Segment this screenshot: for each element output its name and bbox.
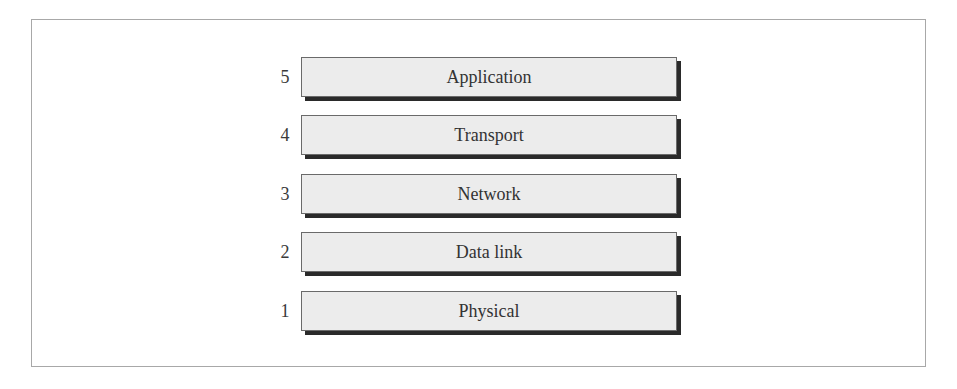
layer-label: Data link [456,242,522,263]
layer-label: Transport [454,125,523,146]
layer-number: 3 [276,184,294,205]
layer-number: 1 [276,301,294,322]
layer-box-application: Application [301,57,677,97]
layer-label: Physical [459,301,520,322]
layer-number: 5 [276,67,294,88]
layer-number: 2 [276,242,294,263]
layer-box-transport: Transport [301,115,677,155]
layer-row-application: 5 Application [0,57,957,101]
layer-row-network: 3 Network [0,174,957,218]
layer-label: Network [458,184,521,205]
layer-box-physical: Physical [301,291,677,331]
layer-row-physical: 1 Physical [0,291,957,335]
layer-box-data-link: Data link [301,232,677,272]
layer-number: 4 [276,125,294,146]
layer-row-data-link: 2 Data link [0,232,957,276]
layer-row-transport: 4 Transport [0,115,957,159]
layer-box-network: Network [301,174,677,214]
layer-label: Application [447,67,532,88]
